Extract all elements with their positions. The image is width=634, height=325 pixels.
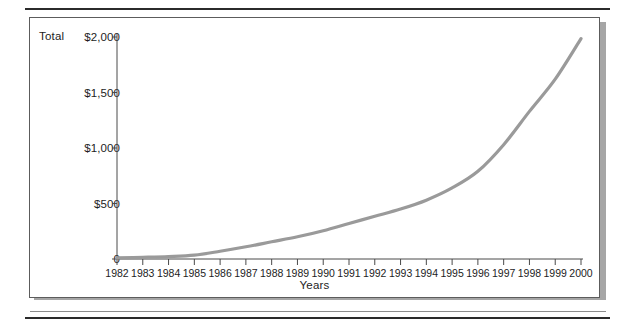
x-tick-label: 1993 bbox=[389, 267, 413, 279]
x-tick-label: 1987 bbox=[234, 267, 258, 279]
plot-area: Total 0$500$1,000$1,500$2,000 1982198319… bbox=[30, 18, 599, 297]
x-tick-label: 2000 bbox=[569, 267, 593, 279]
x-tick-label: 1995 bbox=[440, 267, 464, 279]
top-divider-rule bbox=[25, 8, 610, 10]
x-tick-label: 1992 bbox=[363, 267, 387, 279]
x-tick-label: 1999 bbox=[544, 267, 568, 279]
x-tick-label: 1998 bbox=[518, 267, 542, 279]
x-tick-label: 1985 bbox=[183, 267, 207, 279]
chart-figure: Total 0$500$1,000$1,500$2,000 1982198319… bbox=[29, 17, 600, 298]
x-tick-label: 1988 bbox=[260, 267, 284, 279]
x-tick-label: 1989 bbox=[286, 267, 310, 279]
x-tick-label: 1996 bbox=[466, 267, 490, 279]
x-tick-label: 1986 bbox=[208, 267, 232, 279]
x-axis-title: Years bbox=[30, 279, 599, 291]
x-tick-label: 1991 bbox=[337, 267, 361, 279]
data-series-line bbox=[117, 39, 581, 258]
x-tick-label: 1994 bbox=[415, 267, 439, 279]
bottom-divider-rule bbox=[25, 317, 610, 319]
chart-canvas: 1982198319841985198619871988198919901991… bbox=[30, 18, 601, 299]
page-root: Total 0$500$1,000$1,500$2,000 1982198319… bbox=[0, 0, 634, 325]
x-tick-label: 1982 bbox=[105, 267, 129, 279]
x-tick-label: 1997 bbox=[492, 267, 516, 279]
bottom-thin-rule bbox=[30, 311, 606, 312]
x-tick-label: 1990 bbox=[312, 267, 336, 279]
x-tick-label: 1983 bbox=[131, 267, 155, 279]
x-tick-label: 1984 bbox=[157, 267, 181, 279]
